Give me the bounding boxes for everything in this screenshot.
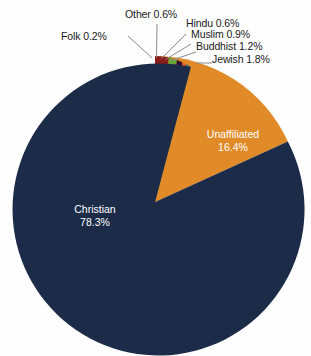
slice-label-christian: Christian 78.3% [50, 203, 140, 229]
callout-label-buddhist: Buddhist 1.2% [196, 40, 262, 52]
slice-label-unaffiliated-name: Unaffiliated [188, 128, 278, 141]
leader-line-other [157, 24, 158, 58]
slice-label-unaffiliated-value: 16.4% [188, 141, 278, 154]
callout-label-muslim: Muslim 0.9% [191, 28, 250, 40]
slice-label-unaffiliated: Unaffiliated 16.4% [188, 128, 278, 154]
callout-label-folk: Folk 0.2% [61, 30, 107, 42]
leader-line-folk [128, 36, 152, 58]
callout-label-jewish: Jewish 1.8% [212, 53, 270, 65]
slice-label-christian-value: 78.3% [50, 216, 140, 229]
leader-line-muslim [166, 44, 192, 60]
slice-label-christian-name: Christian [50, 203, 140, 216]
pie-chart-page: Folk 0.2% Other 0.6% Hindu 0.6% Muslim 0… [0, 0, 311, 356]
callout-label-other: Other 0.6% [125, 8, 177, 20]
